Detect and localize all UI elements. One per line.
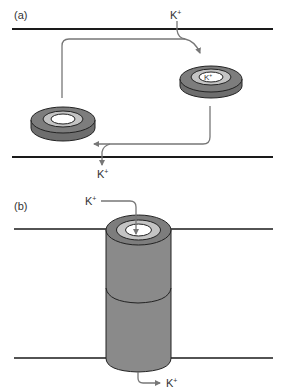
panel-b-label: (b) xyxy=(14,200,27,212)
assembled-channel-cylinder xyxy=(106,215,171,372)
k-ion-label-out-a: K+ xyxy=(97,168,108,180)
ion-path-out-arrow xyxy=(102,144,110,165)
ion-path-transfer-arrow xyxy=(94,106,210,144)
panel-a-label: (a) xyxy=(14,9,27,21)
ion-path-in-arrow xyxy=(177,21,200,53)
panel-a: (a) K+ K+ K+ xyxy=(12,9,273,180)
ion-path-out-b-arrow xyxy=(138,372,160,383)
channel-subunit-ring-left xyxy=(31,107,95,141)
k-ion-label-in-b: K+ xyxy=(85,195,96,207)
channel-subunit-ring-right: K+ xyxy=(180,66,242,98)
recycle-path-line xyxy=(62,39,185,98)
k-ion-label-in-a: K+ xyxy=(170,9,181,21)
k-ion-label-out-b: K+ xyxy=(166,377,177,389)
panel-b: (b) K+ K+ xyxy=(14,195,273,389)
potassium-channel-diagram: (a) K+ K+ K+ (b) xyxy=(0,0,283,391)
